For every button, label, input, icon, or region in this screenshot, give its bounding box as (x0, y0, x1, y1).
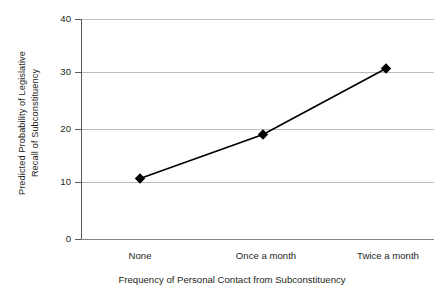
chart-figure: Predicted Probability of Legislative Rec… (0, 0, 448, 291)
data-point-none (135, 173, 145, 183)
series-markers (135, 63, 391, 183)
x-tick-label-twice-a-month: Twice a month (357, 250, 419, 261)
series-line (140, 69, 386, 179)
data-point-twice-a-month (381, 63, 391, 73)
x-axis-title: Frequency of Personal Contact from Subco… (0, 274, 448, 286)
x-tick-label-once-a-month: Once a month (236, 250, 296, 261)
data-point-once-a-month (258, 129, 268, 139)
x-tick-label-none: None (129, 250, 152, 261)
data-series-layer (0, 0, 448, 291)
